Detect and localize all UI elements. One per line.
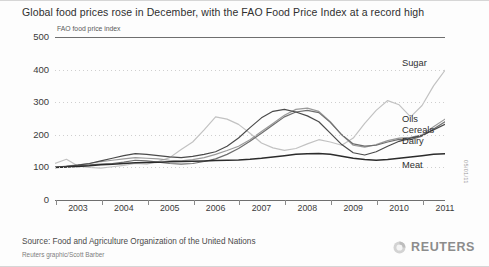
series-lines: [55, 37, 445, 200]
axis-baseline: [55, 200, 445, 201]
graphic-credit: Reuters graphic/Scott Barber: [22, 251, 104, 258]
x-axis-tick-mark: [148, 200, 149, 205]
series-label-sugar: Sugar: [402, 58, 427, 68]
date-stamp: 05/01/11: [463, 160, 469, 184]
gridline-400: [55, 70, 445, 71]
axis-top-line: [55, 37, 445, 38]
x-axis-tick-label: 2008: [298, 203, 318, 213]
reuters-logo: REUTERS: [393, 240, 475, 254]
x-axis-tick-label: 2007: [252, 203, 272, 213]
series-label-dairy: Dairy: [402, 136, 424, 146]
x-axis-tick-mark: [285, 200, 286, 205]
top-rule: [0, 0, 489, 1]
gridline-300: [55, 102, 445, 103]
x-axis-tick-label: 2009: [343, 203, 363, 213]
y-axis-tick-label: 300: [19, 96, 49, 107]
y-axis-tick-label: 200: [19, 129, 49, 140]
reuters-chart-graphic: Global food prices rose in December, wit…: [0, 0, 489, 267]
gridline-100: [55, 167, 445, 168]
source-note: Source: Food and Agriculture Organizatio…: [22, 237, 255, 246]
series-label-cereals: Cereals: [402, 125, 434, 135]
x-axis-tick-label: 2010: [389, 203, 409, 213]
x-axis-tick-mark: [331, 200, 332, 205]
y-axis-tick-label: 0: [19, 194, 49, 205]
x-axis-tick-label: 2006: [206, 203, 226, 213]
y-axis-tick-label: 400: [19, 64, 49, 75]
series-label-meat: Meat: [402, 160, 423, 170]
x-axis-tick-label: 2005: [160, 203, 180, 213]
x-axis-tick-mark: [377, 200, 378, 205]
x-axis-tick-mark: [239, 200, 240, 205]
series-line-sugar: [55, 70, 445, 168]
y-axis-tick-label: 100: [19, 161, 49, 172]
page-title: Global food prices rose in December, wit…: [22, 6, 472, 18]
plot-area: [55, 37, 445, 200]
x-axis-tick-mark: [56, 200, 57, 205]
x-axis-tick-label: 2003: [68, 203, 88, 213]
x-axis-tick-mark: [423, 200, 424, 205]
reuters-wordmark: REUTERS: [411, 240, 475, 254]
y-axis-tick-label: 500: [19, 31, 49, 42]
y-axis-unit-label: FAO food price index: [57, 25, 120, 32]
x-axis-tick-mark: [102, 200, 103, 205]
x-axis-tick-label: 2004: [114, 203, 134, 213]
series-label-oils: Oils: [402, 114, 418, 124]
x-axis-tick-label: 2011: [436, 203, 455, 213]
reuters-orb-icon: [393, 241, 406, 254]
gridline-200: [55, 135, 445, 136]
x-axis-tick-mark: [194, 200, 195, 205]
